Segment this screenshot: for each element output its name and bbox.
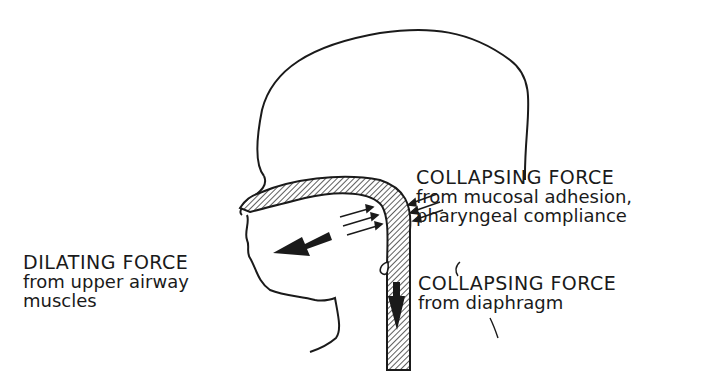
leader-line-lower [490,318,498,338]
label-line: muscles [23,292,189,311]
label-title: COLLAPSING FORCE [416,168,632,188]
collapsing-force-diaphragm-label: COLLAPSING FORCE from diaphragm [418,274,616,313]
label-line: from mucosal adhesion, [416,188,632,207]
label-title: DILATING FORCE [23,253,189,273]
label-line: from upper airway [23,273,189,292]
epiglottis [380,262,388,274]
dilating-arrow [273,232,332,256]
collapsing-force-mucosal-label: COLLAPSING FORCE from mucosal adhesion, … [416,168,632,226]
head-outline [257,30,528,180]
label-line: pharyngeal compliance [416,207,632,226]
dilating-force-label: DILATING FORCE from upper airway muscles [23,253,189,311]
label-title: COLLAPSING FORCE [418,274,616,294]
label-line: from diaphragm [418,294,616,313]
